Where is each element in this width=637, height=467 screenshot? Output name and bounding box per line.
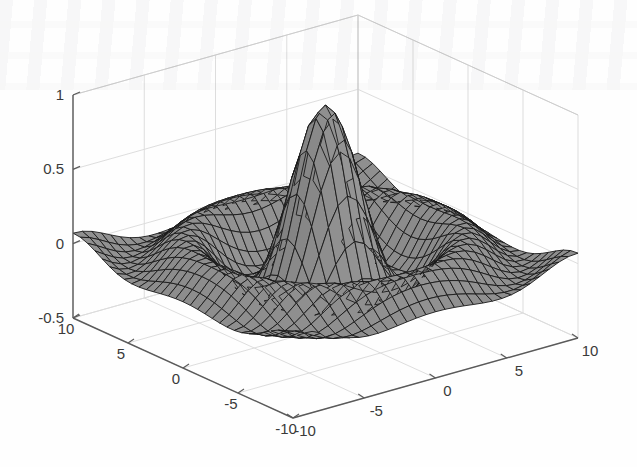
x-tick-label: -5 [370, 402, 383, 419]
y-tick-label: -5 [224, 395, 237, 412]
z-tick-label: 1 [56, 86, 64, 103]
z-tick-label: 0 [56, 235, 64, 252]
y-tick-label: 10 [58, 320, 75, 337]
z-tick-label: 0.5 [43, 160, 64, 177]
x-tick-label: 0 [443, 382, 451, 399]
y-tick-label: 0 [172, 370, 180, 387]
x-tick-label: 10 [582, 342, 599, 359]
y-tick-label: 5 [117, 345, 125, 362]
x-tick-label: -10 [294, 422, 316, 439]
figure-canvas: -0.500.511050-5-10-10-50510 [0, 0, 637, 467]
x-tick-label: 5 [515, 362, 523, 379]
surface-plot: -0.500.511050-5-10-10-50510 [0, 0, 637, 467]
